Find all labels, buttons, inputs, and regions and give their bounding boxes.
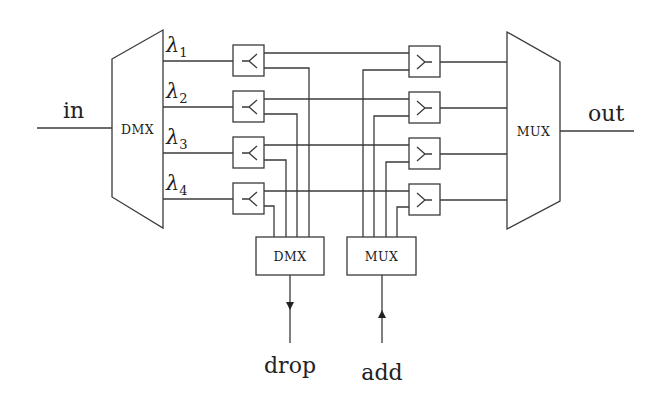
add-mux-label: MUX bbox=[365, 249, 399, 264]
svg-text:λ2: λ2 bbox=[165, 79, 188, 106]
drop-lines bbox=[264, 68, 309, 237]
lambda-4-label: λ4 bbox=[165, 171, 188, 198]
output-label: out bbox=[588, 101, 624, 126]
main-mux-label: MUX bbox=[517, 124, 551, 139]
add-lines bbox=[363, 70, 409, 237]
drop-switch-3 bbox=[233, 137, 264, 168]
lambda-1-label: λ1 bbox=[165, 33, 188, 60]
add-switch-4 bbox=[409, 184, 440, 215]
add-switch-3 bbox=[409, 138, 440, 169]
oadm-diagram: in DMX λ1 λ2 λ3 λ4 bbox=[0, 0, 668, 403]
input-label: in bbox=[63, 98, 84, 123]
add-switch-1 bbox=[409, 46, 440, 77]
add-label: add bbox=[361, 360, 402, 385]
drop-demux-label: DMX bbox=[273, 249, 306, 264]
svg-text:λ4: λ4 bbox=[165, 171, 188, 198]
mux-input-lines bbox=[440, 62, 507, 200]
add-switch-2 bbox=[409, 92, 440, 123]
main-demux-label: DMX bbox=[121, 122, 154, 137]
drop-switch-4 bbox=[233, 183, 264, 214]
lambda-2-label: λ2 bbox=[165, 79, 188, 106]
add-arrow-icon bbox=[378, 310, 386, 318]
drop-switch-2 bbox=[233, 91, 264, 122]
lambda-3-label: λ3 bbox=[165, 125, 188, 152]
drop-arrow-icon bbox=[286, 302, 294, 310]
svg-text:λ3: λ3 bbox=[165, 125, 188, 152]
drop-switch-1 bbox=[233, 45, 264, 76]
drop-label: drop bbox=[264, 353, 316, 378]
svg-text:λ1: λ1 bbox=[165, 33, 188, 60]
